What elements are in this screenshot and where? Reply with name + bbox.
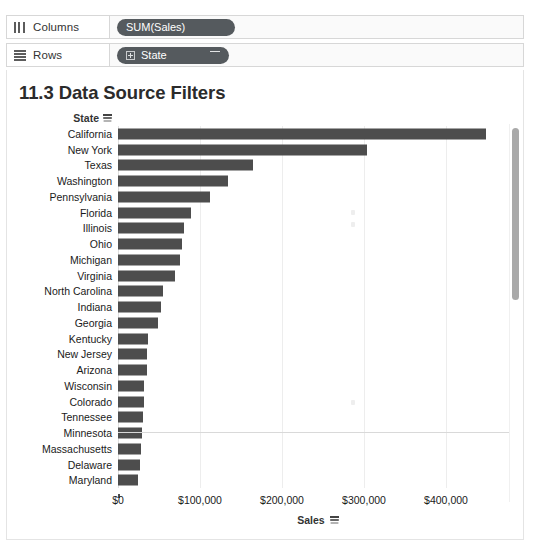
pill-sum-sales-label: SUM(Sales) xyxy=(126,21,185,33)
bar[interactable] xyxy=(118,223,184,234)
sort-descending-icon[interactable] xyxy=(210,51,220,60)
row-label[interactable]: Indiana xyxy=(7,301,118,313)
bar[interactable] xyxy=(118,302,161,313)
row-label[interactable]: Maryland xyxy=(7,474,118,486)
row-label[interactable]: Colorado xyxy=(7,396,118,408)
page-title: 11.3 Data Source Filters xyxy=(19,82,225,104)
row-label[interactable]: Michigan xyxy=(7,254,118,266)
columns-shelf[interactable]: Columns SUM(Sales) xyxy=(6,15,524,39)
chart-row: Indiana xyxy=(7,299,518,315)
pill-sum-sales[interactable]: SUM(Sales) xyxy=(117,19,235,36)
row-label[interactable]: Florida xyxy=(7,207,118,219)
bar[interactable] xyxy=(118,191,210,202)
shelf-area: Columns SUM(Sales) Rows State xyxy=(6,15,524,71)
chart-row: Colorado xyxy=(7,394,518,410)
chart-row: Kentucky xyxy=(7,331,518,347)
bar[interactable] xyxy=(118,365,147,376)
sort-descending-icon[interactable] xyxy=(330,516,339,524)
render-artifact xyxy=(351,222,355,227)
row-label[interactable]: Illinois xyxy=(7,222,118,234)
bar[interactable] xyxy=(118,270,175,281)
bar[interactable] xyxy=(118,286,163,297)
bar-cell xyxy=(118,189,518,205)
bar[interactable] xyxy=(118,333,148,344)
bar[interactable] xyxy=(118,160,253,171)
chart-row: Wisconsin xyxy=(7,378,518,394)
vertical-scrollbar[interactable] xyxy=(509,124,521,502)
row-label[interactable]: Ohio xyxy=(7,238,118,250)
bar[interactable] xyxy=(118,475,138,486)
row-label[interactable]: Wisconsin xyxy=(7,380,118,392)
vertical-scrollbar-thumb[interactable] xyxy=(512,128,519,300)
x-axis-tick-label: $200,000 xyxy=(260,494,304,506)
row-field-header-label: State xyxy=(73,112,99,124)
row-label[interactable]: Washington xyxy=(7,175,118,187)
columns-drop-zone[interactable]: SUM(Sales) xyxy=(110,16,523,38)
row-label[interactable]: New Jersey xyxy=(7,348,118,360)
row-label[interactable]: Georgia xyxy=(7,317,118,329)
bar-cell xyxy=(118,299,518,315)
bar-cell xyxy=(118,252,518,268)
bar-cell xyxy=(118,173,518,189)
chart-rows: CaliforniaNew YorkTexasWashingtonPennsyl… xyxy=(7,126,518,488)
x-axis-title[interactable]: Sales xyxy=(118,514,518,526)
axis-baseline xyxy=(118,432,511,433)
rows-shelf-header: Rows xyxy=(7,44,110,66)
bar[interactable] xyxy=(118,176,228,187)
bar-cell xyxy=(118,394,518,410)
x-axis-tick-label: $300,000 xyxy=(342,494,386,506)
chart-row: Georgia xyxy=(7,315,518,331)
bar-cell xyxy=(118,221,518,237)
bar[interactable] xyxy=(118,459,140,470)
render-artifact xyxy=(351,210,355,215)
bar-cell xyxy=(118,315,518,331)
x-axis-tick-label: $400,000 xyxy=(424,494,468,506)
row-label[interactable]: New York xyxy=(7,144,118,156)
row-label[interactable]: Tennessee xyxy=(7,411,118,423)
bar-chart: CaliforniaNew YorkTexasWashingtonPennsyl… xyxy=(7,126,518,488)
row-label[interactable]: Delaware xyxy=(7,459,118,471)
row-label[interactable]: Minnesota xyxy=(7,427,118,439)
pill-state[interactable]: State xyxy=(117,47,229,64)
bar[interactable] xyxy=(118,254,180,265)
bar-cell xyxy=(118,410,518,426)
bar-cell xyxy=(118,473,518,489)
bar-cell xyxy=(118,457,518,473)
expand-plus-icon[interactable] xyxy=(126,51,135,60)
row-label[interactable]: Kentucky xyxy=(7,333,118,345)
chart-row: Washington xyxy=(7,173,518,189)
chart-row: Illinois xyxy=(7,221,518,237)
row-field-header[interactable]: State xyxy=(7,112,118,124)
bar[interactable] xyxy=(118,128,486,139)
chart-row: Virginia xyxy=(7,268,518,284)
row-label[interactable]: Arizona xyxy=(7,364,118,376)
x-axis-tick-label: $0 xyxy=(112,494,124,506)
bar-cell xyxy=(118,441,518,457)
sort-descending-icon[interactable] xyxy=(103,114,112,122)
chart-row: Michigan xyxy=(7,252,518,268)
row-label[interactable]: North Carolina xyxy=(7,285,118,297)
bar[interactable] xyxy=(118,443,141,454)
bar[interactable] xyxy=(118,144,367,155)
row-label[interactable]: Texas xyxy=(7,159,118,171)
pill-state-label: State xyxy=(141,49,167,61)
x-axis-ticks: $0$100,000$200,000$300,000$400,000 xyxy=(118,494,518,510)
chart-row: Minnesota xyxy=(7,425,518,441)
bar[interactable] xyxy=(118,428,142,439)
row-label[interactable]: Virginia xyxy=(7,270,118,282)
bar[interactable] xyxy=(118,349,147,360)
bar-cell xyxy=(118,362,518,378)
columns-shelf-label: Columns xyxy=(33,21,79,33)
rows-shelf[interactable]: Rows State xyxy=(6,43,524,67)
row-label[interactable]: Massachusetts xyxy=(7,443,118,455)
row-label[interactable]: California xyxy=(7,128,118,140)
bar[interactable] xyxy=(118,207,191,218)
row-label[interactable]: Pennsylvania xyxy=(7,191,118,203)
bar[interactable] xyxy=(118,317,158,328)
bar[interactable] xyxy=(118,380,144,391)
chart-row: Texas xyxy=(7,158,518,174)
bar[interactable] xyxy=(118,239,182,250)
bar[interactable] xyxy=(118,412,143,423)
rows-drop-zone[interactable]: State xyxy=(110,44,523,66)
bar[interactable] xyxy=(118,396,144,407)
